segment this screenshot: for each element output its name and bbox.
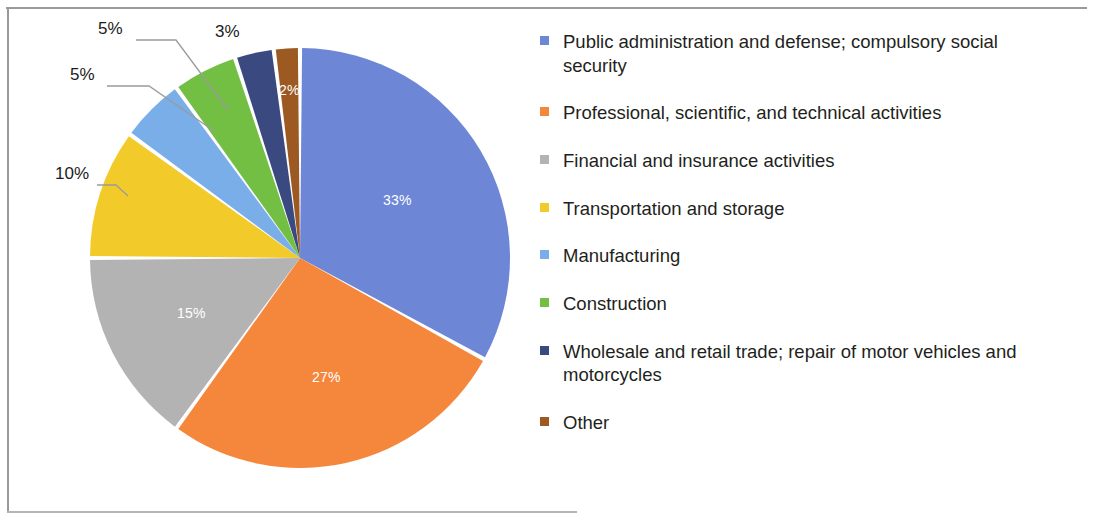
legend-swatch-icon xyxy=(540,155,549,164)
legend-swatch-icon xyxy=(540,346,549,355)
legend-swatch-icon xyxy=(540,250,549,259)
chart-legend: Public administration and defense; compu… xyxy=(540,30,1085,459)
legend-swatch-icon xyxy=(540,36,549,45)
legend-item[interactable]: Professional, scientific, and technical … xyxy=(540,101,1085,125)
legend-item[interactable]: Transportation and storage xyxy=(540,197,1085,221)
slice-label-27: 27% xyxy=(312,369,341,385)
legend-item-label: Manufacturing xyxy=(563,244,680,268)
legend-item-label: Professional, scientific, and technical … xyxy=(563,101,941,125)
pie-chart-figure: 33% 27% 15% 2% 10% 5% 5% 3% Public admin… xyxy=(0,0,1093,525)
legend-swatch-icon xyxy=(540,107,549,116)
slice-label-5-manufacturing: 5% xyxy=(70,65,95,85)
legend-item-label: Construction xyxy=(563,292,667,316)
legend-item[interactable]: Other xyxy=(540,411,1085,435)
legend-swatch-icon xyxy=(540,203,549,212)
legend-item-label: Public administration and defense; compu… xyxy=(563,30,1063,77)
legend-item-label: Wholesale and retail trade; repair of mo… xyxy=(563,340,1063,387)
legend-item-label: Financial and insurance activities xyxy=(563,149,834,173)
legend-swatch-icon xyxy=(540,417,549,426)
slice-label-2: 2% xyxy=(279,82,300,98)
legend-item-label: Other xyxy=(563,411,609,435)
pie-plot-area: 33% 27% 15% 2% 10% 5% 5% 3% xyxy=(0,0,530,525)
legend-item[interactable]: Wholesale and retail trade; repair of mo… xyxy=(540,340,1085,387)
pie-slice-group xyxy=(90,48,510,468)
slice-label-15: 15% xyxy=(177,305,206,321)
legend-item-label: Transportation and storage xyxy=(563,197,784,221)
slice-label-10: 10% xyxy=(55,164,89,184)
slice-label-5-construction: 5% xyxy=(98,19,123,39)
legend-swatch-icon xyxy=(540,298,549,307)
legend-item[interactable]: Manufacturing xyxy=(540,244,1085,268)
legend-item[interactable]: Construction xyxy=(540,292,1085,316)
slice-label-33: 33% xyxy=(383,192,412,208)
legend-item[interactable]: Public administration and defense; compu… xyxy=(540,30,1085,77)
slice-label-3: 3% xyxy=(215,22,240,42)
legend-item[interactable]: Financial and insurance activities xyxy=(540,149,1085,173)
